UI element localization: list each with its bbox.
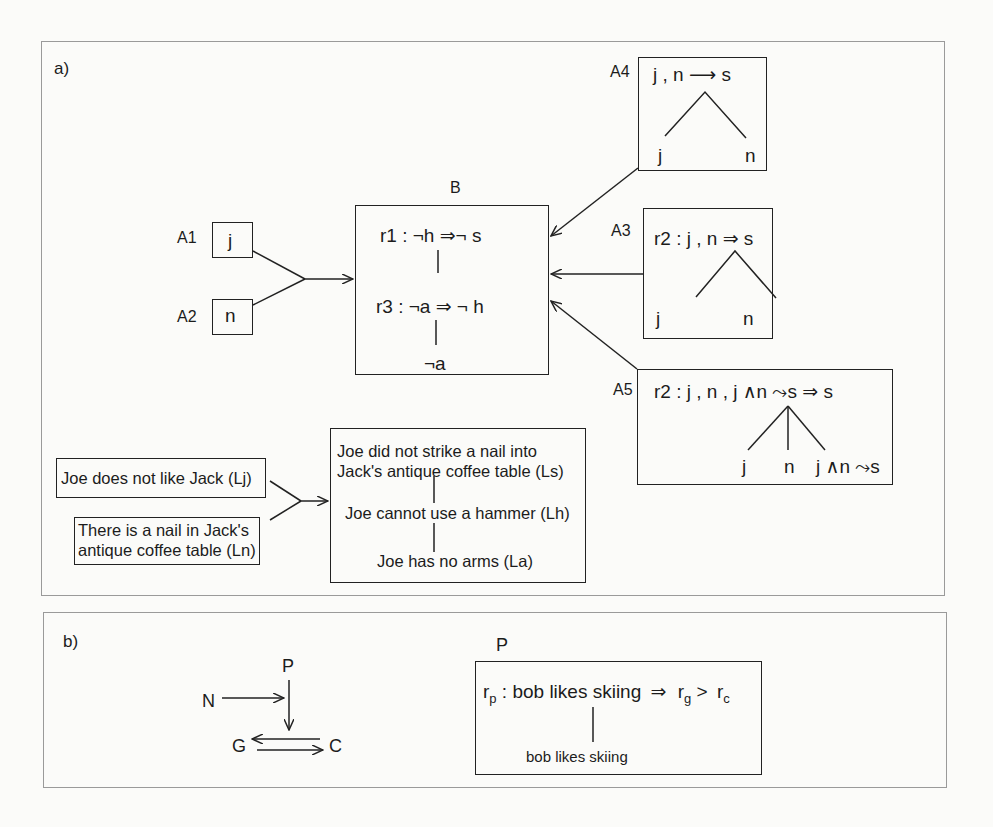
argument-a2-box: n bbox=[212, 299, 253, 335]
argument-a4-box: j , n ⟶ s j n bbox=[638, 57, 767, 171]
rule-r3: r3 : ¬a ⇒ ¬ h bbox=[376, 297, 484, 316]
argument-a1-content: j bbox=[228, 231, 232, 250]
argument-a5-leaf-n: n bbox=[784, 457, 795, 476]
conclusion-ls-box: Joe did not strike a nail into Jack's an… bbox=[330, 428, 586, 583]
argument-p-leaf: bob likes skiing bbox=[526, 749, 628, 764]
argument-a2-content: n bbox=[225, 306, 236, 325]
argument-p-box: rp : bob likes skiing ⇒ rg > rc bob like… bbox=[475, 661, 762, 775]
argument-b-box: r1 : ¬h ⇒¬ s r3 : ¬a ⇒ ¬ h ¬a bbox=[355, 205, 549, 375]
rule-rc-symbol: rc bbox=[717, 681, 730, 702]
node-n: N bbox=[202, 692, 215, 710]
argument-a3-conclusion: r2 : j , n ⇒ s bbox=[654, 229, 753, 248]
argument-a3-leaf-n: n bbox=[743, 309, 754, 328]
argument-a2-label: A2 bbox=[177, 309, 197, 325]
conclusion-ls-text-2: Jack's antique coffee table (Ls) bbox=[337, 463, 564, 480]
argument-a3-leaf-j: j bbox=[656, 309, 660, 328]
argument-a5-box: r2 : j , n , j ∧n ⤳s ⇒ s j n j ∧n ⤳s bbox=[637, 369, 893, 485]
argument-b-leaf: ¬a bbox=[424, 354, 446, 373]
support-la-text: Joe has no arms (La) bbox=[377, 553, 533, 570]
argument-a5-leaf-jn-s: j ∧n ⤳s bbox=[816, 457, 880, 476]
node-p: P bbox=[282, 657, 294, 675]
panel-b-label: b) bbox=[63, 633, 78, 650]
argument-a3-box: r2 : j , n ⇒ s j n bbox=[643, 208, 773, 339]
premise-lj-text: Joe does not like Jack (Lj) bbox=[61, 470, 252, 487]
priority-rule: rp : bob likes skiing ⇒ rg > rc bbox=[483, 682, 730, 705]
greater-than-symbol: > bbox=[697, 681, 708, 702]
argument-p-label: P bbox=[496, 636, 508, 654]
argument-b-label: B bbox=[450, 180, 461, 196]
rule-r1: r1 : ¬h ⇒¬ s bbox=[380, 226, 481, 245]
rule-rg-symbol: rg bbox=[678, 681, 692, 702]
conclusion-ls-text-1: Joe did not strike a nail into bbox=[337, 443, 537, 460]
premise-ln-box: There is a nail in Jack's antique coffee… bbox=[74, 517, 260, 565]
premise-ln-text-2: antique coffee table (Ln) bbox=[78, 542, 256, 559]
argument-a1-label: A1 bbox=[177, 230, 197, 246]
support-lh-text: Joe cannot use a hammer (Lh) bbox=[345, 505, 570, 522]
premise-ln-text-1: There is a nail in Jack's bbox=[78, 522, 249, 539]
argument-a3-label: A3 bbox=[611, 223, 631, 239]
argument-a5-label: A5 bbox=[613, 382, 633, 398]
node-c: C bbox=[329, 737, 342, 755]
implies-symbol: ⇒ bbox=[651, 681, 667, 702]
rule-rp-premise: : bob likes skiing bbox=[502, 681, 641, 702]
panel-a-label: a) bbox=[54, 60, 69, 77]
argument-a5-conclusion: r2 : j , n , j ∧n ⤳s ⇒ s bbox=[654, 382, 833, 401]
argument-a4-leaf-j: j bbox=[658, 146, 662, 165]
argument-a4-conclusion: j , n ⟶ s bbox=[653, 65, 731, 84]
node-g: G bbox=[232, 737, 246, 755]
premise-lj-box: Joe does not like Jack (Lj) bbox=[56, 458, 266, 498]
rule-rp-symbol: rp bbox=[483, 681, 497, 702]
argument-a4-leaf-n: n bbox=[745, 146, 756, 165]
argument-a4-label: A4 bbox=[610, 64, 630, 80]
argument-a1-box: j bbox=[212, 222, 253, 258]
argument-a5-leaf-j: j bbox=[742, 457, 746, 476]
